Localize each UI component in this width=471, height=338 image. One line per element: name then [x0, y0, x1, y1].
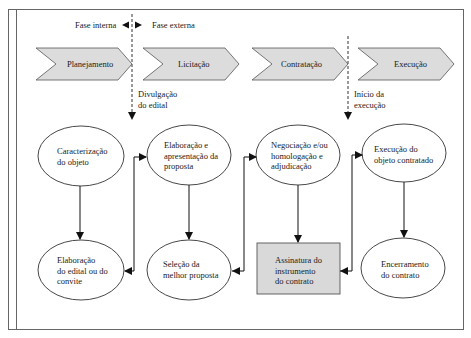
text-line: Caracterização [57, 146, 108, 157]
text-elaboracao-proposta: Elaboração e apresentação da proposta [164, 140, 218, 172]
left-arrow-icon [122, 22, 129, 29]
stage-label-licitacao: Licitação [178, 59, 210, 70]
text-line: melhor proposta [163, 270, 218, 281]
arrowhead-into-selecao-icon [232, 267, 240, 275]
text-line: convite [57, 276, 108, 287]
milestone-inicio-execucao: Início da execução [354, 89, 386, 110]
text-line: instrumento [275, 266, 322, 277]
stage-label-contratacao: Contratação [281, 59, 322, 70]
text-caracterizacao: Caracterização do objeto [57, 146, 108, 167]
arrowhead-into-assinatura-icon [340, 267, 348, 275]
milestone-divulgacao-line2: do edital [138, 100, 177, 111]
text-line: Elaboração [57, 255, 108, 266]
milestone-divulgacao: Divulgação do edital [138, 89, 177, 110]
right-arrow-icon [135, 22, 142, 29]
text-selecao: Seleção da melhor proposta [163, 259, 218, 280]
text-negociacao: Negociação e/ou homologação e adjudicaçã… [271, 140, 328, 172]
text-assinatura: Assinatura do instrumento do contrato [275, 255, 322, 287]
text-encerramento: Encerramento do contrato [381, 259, 429, 280]
milestone-inicio-line2: execução [354, 100, 386, 111]
text-line: do contrato [381, 270, 429, 281]
text-line: proposta [164, 161, 218, 172]
label-fase-interna: Fase interna [75, 20, 116, 31]
connector-selecao-negociacao [232, 157, 256, 271]
text-line: homologação e [271, 151, 328, 162]
text-line: Seleção da [163, 259, 218, 270]
connector-assinatura-execucao [340, 155, 362, 271]
text-line: adjudicação [271, 161, 328, 172]
text-line: Execução do [374, 144, 433, 155]
milestone-divulgacao-line1: Divulgação [138, 89, 177, 100]
connector-edital-proposta [125, 157, 146, 271]
execution-arrow-icon [344, 112, 352, 120]
stage-label-planejamento: Planejamento [67, 59, 113, 70]
text-line: apresentação da [164, 151, 218, 162]
edital-arrow-icon [128, 112, 136, 120]
stage-label-execucao: Execução [394, 59, 427, 70]
milestone-inicio-line1: Início da [354, 89, 386, 100]
text-line: Negociação e/ou [271, 140, 328, 151]
text-line: Assinatura do [275, 255, 322, 266]
label-fase-externa: Fase externa [152, 20, 195, 31]
text-elaboracao-edital: Elaboração do edital ou do convite [57, 255, 108, 287]
text-line: Encerramento [381, 259, 429, 270]
text-line: do edital ou do [57, 266, 108, 277]
arrowhead-into-edital-icon [124, 267, 132, 275]
text-line: do contrato [275, 276, 322, 287]
text-line: Elaboração e [164, 140, 218, 151]
text-line: do objeto [57, 157, 108, 168]
text-line: objeto contratado [374, 155, 433, 166]
text-execucao-objeto: Execução do objeto contratado [374, 144, 433, 165]
